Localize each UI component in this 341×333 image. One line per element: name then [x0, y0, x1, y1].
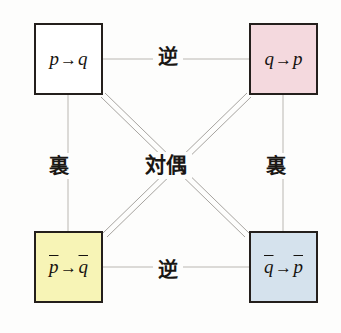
edge-label-inverse-right: 裏: [262, 153, 290, 179]
edge-label-contrapositive-center: 対偶: [140, 152, 192, 179]
edge-label-inverse-left: 裏: [45, 153, 73, 179]
node-original-proposition[interactable]: p→q: [34, 23, 103, 95]
node-contrapositive-proposition[interactable]: q→p: [249, 231, 318, 303]
node-original-label: p→q: [50, 48, 88, 70]
node-converse-proposition[interactable]: q→p: [249, 23, 318, 95]
logic-relations-diagram: p→q q→p p→q q→p 逆 逆 裏 裏 対偶: [0, 0, 341, 333]
node-inverse-proposition[interactable]: p→q: [34, 231, 103, 303]
node-converse-label: q→p: [265, 48, 303, 70]
edge-label-converse-top: 逆: [153, 45, 183, 69]
node-contrapositive-label: q→p: [264, 256, 304, 278]
edge-label-converse-bottom: 逆: [153, 258, 183, 282]
node-inverse-label: p→q: [49, 256, 89, 278]
